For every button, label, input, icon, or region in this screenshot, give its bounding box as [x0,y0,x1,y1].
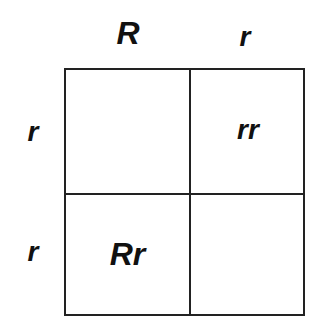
row-allele-1: r [18,118,48,146]
grid-divider-vertical [189,70,191,314]
column-allele-2: r [230,23,260,51]
punnett-grid: rr Rr [64,68,305,316]
grid-divider-horizontal [66,193,303,195]
row-allele-2: r [18,238,48,266]
cell-r1c2: rr [191,116,305,144]
cell-r2c1: Rr [66,238,189,270]
column-allele-1: R [108,17,148,49]
